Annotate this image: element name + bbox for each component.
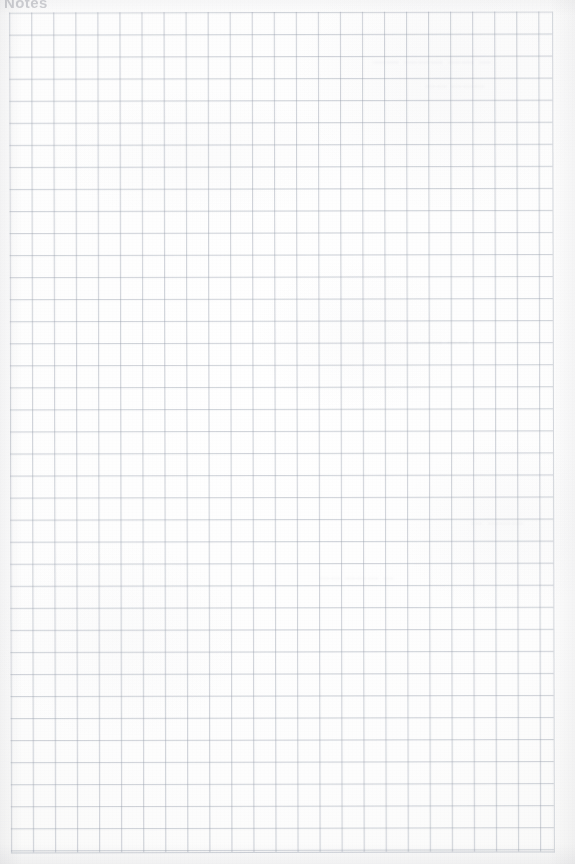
grid-wrapper: [0, 0, 575, 864]
scanned-page: Notes — —— ——— —— ——— —— ——— — —— ——— — …: [0, 0, 575, 864]
graph-paper-grid: [9, 11, 554, 852]
